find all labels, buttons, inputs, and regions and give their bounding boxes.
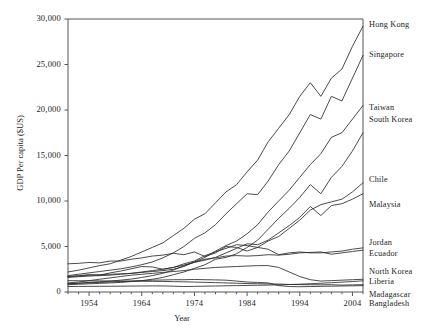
series-label-hong-kong: Hong Kong <box>369 20 409 29</box>
series-label-chile: Chile <box>369 175 388 184</box>
series-label-south-korea: South Korea <box>369 115 412 124</box>
y-tick-label: 10,000 <box>0 195 61 205</box>
y-tick-label: 0 <box>0 286 61 296</box>
series-label-liberia: Liberia <box>369 277 394 286</box>
series-line-hong-kong <box>68 26 363 272</box>
series-label-bangladesh: Bangladesh <box>369 299 409 308</box>
x-tick-label: 1954 <box>64 298 114 308</box>
y-tick-label: 15,000 <box>0 150 61 160</box>
series-label-jordan: Jordan <box>369 238 392 247</box>
series-line-jordan <box>68 245 363 277</box>
x-axis-title: Year <box>0 313 364 323</box>
series-line-malaysia <box>68 194 363 278</box>
y-tick-label: 20,000 <box>0 104 61 114</box>
gdp-per-capita-line-chart: GDP Per capita ($US) Year 05,00010,00015… <box>0 0 436 335</box>
series-label-north-korea: North Korea <box>369 267 412 276</box>
y-tick-label: 25,000 <box>0 59 61 69</box>
series-label-madagascar: Madagascar <box>369 290 411 299</box>
series-label-malaysia: Malaysia <box>369 200 401 209</box>
x-tick-label: 1994 <box>275 298 325 308</box>
series-line-singapore <box>68 55 363 275</box>
series-label-ecuador: Ecuador <box>369 249 398 258</box>
x-tick-label: 1984 <box>222 298 272 308</box>
y-tick-label: 30,000 <box>0 13 61 23</box>
series-label-taiwan: Taiwan <box>369 103 394 112</box>
y-tick-label: 5,000 <box>0 241 61 251</box>
x-tick-label: 1974 <box>169 298 219 308</box>
x-tick-label: 1964 <box>117 298 167 308</box>
series-label-singapore: Singapore <box>369 50 404 59</box>
